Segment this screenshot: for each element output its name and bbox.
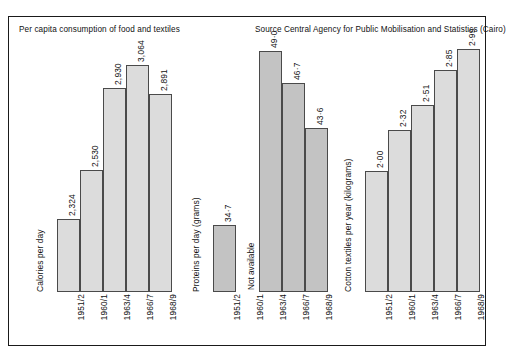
x-axis-label: 1963/4 [279,294,288,342]
bar: 34·7 [213,225,236,292]
axis-title-calories: Calories per day [35,229,45,292]
bars-proteins: 34·7 1951/2 Not available 1960/1 49·0 19… [213,43,329,292]
axis-title-textiles: Cotton textiles per year (kilograms) [343,159,353,292]
bar: 3,064 [126,65,149,292]
chart-figure: Per capita consumption of food and texti… [8,16,486,346]
bar: 2·32 [388,130,411,292]
bar: 2·00 [365,171,388,292]
bars-textiles: 2·00 1951/2 2·32 1960/1 2·51 1963/4 [365,43,481,292]
bar-value-label: 2·51 [421,84,431,102]
bar-value-label: 2,324 [67,194,77,216]
bar-value-label: 2·85 [444,49,454,67]
plot-area: Calories per day 2,324 1951/2 2,530 1960… [9,43,487,345]
x-axis-label: 1960/1 [100,294,109,342]
bar-value-label: 34·7 [223,204,233,222]
bar: 2·85 [434,70,457,292]
x-axis-label: 1966/7 [454,294,463,342]
bar: 2,891 [149,94,172,292]
x-axis-label: 1966/7 [302,294,311,342]
bar: 2,930 [103,88,126,292]
bar-value-label: 2,891 [159,69,169,91]
panel-proteins: Proteins per day (grams) 34·7 1951/2 Not… [187,43,329,345]
chart-title: Per capita consumption of food and texti… [19,25,180,34]
x-axis-label: 1960/1 [408,294,417,342]
bar: 2·51 [411,105,434,292]
bar: 2,324 [57,219,80,292]
bar-value-label: 2·99 [467,28,477,46]
bar-value-label: 3,064 [136,40,146,62]
bar: 2,530 [80,170,103,292]
x-axis-label: 1968/9 [477,294,486,342]
bar-value-label: 2·32 [398,109,408,127]
bar-value-label: 49·0 [269,30,279,48]
not-available-label: Not available [247,243,256,290]
bar-value-label: 2·00 [375,150,385,168]
axis-title-proteins: Proteins per day (grams) [191,197,201,292]
x-axis-label: 1960/1 [256,294,265,342]
bar-value-label: 46·7 [292,62,302,80]
x-axis-label: 1951/2 [77,294,86,342]
panel-calories: Calories per day 2,324 1951/2 2,530 1960… [31,43,173,345]
x-axis-label: 1951/2 [233,294,242,342]
bar-value-label: 43·6 [315,107,325,125]
x-axis-label: 1963/4 [123,294,132,342]
bar: 49·0 [259,51,282,292]
x-axis-label: 1963/4 [431,294,440,342]
x-axis-label: 1968/9 [169,294,178,342]
bar: 2·99 [457,49,480,292]
bar-value-label: 2,930 [113,63,123,85]
x-axis-label: 1951/2 [385,294,394,342]
x-axis-label: 1966/7 [146,294,155,342]
bar: 46·7 [282,83,305,292]
bar: 43·6 [305,128,328,292]
x-axis-label: 1968/9 [325,294,334,342]
bar-value-label: 2,530 [90,145,100,167]
bars-calories: 2,324 1951/2 2,530 1960/1 2,930 1963/4 [57,43,173,292]
panel-textiles: Cotton textiles per year (kilograms) 2·0… [339,43,481,345]
